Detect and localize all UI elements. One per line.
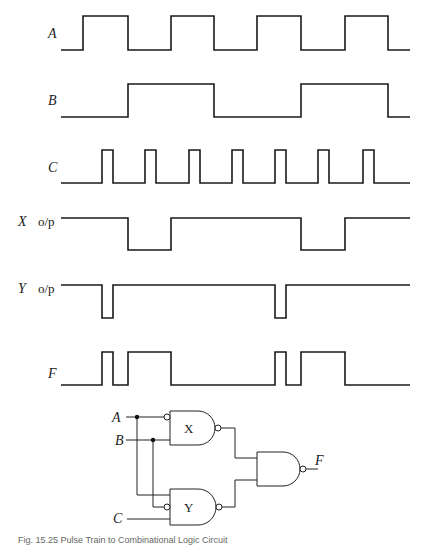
input-label-b: B	[115, 433, 124, 448]
inverter-bubble-a	[164, 414, 170, 420]
wire-x-out	[221, 428, 257, 458]
wire-y-out	[222, 480, 257, 507]
output-bubble-f	[300, 466, 306, 472]
output-bubble-y	[216, 504, 222, 510]
waveform-c	[61, 150, 410, 183]
output-bubble-x	[215, 425, 221, 431]
waveform-f	[61, 352, 410, 385]
junction-b	[151, 438, 155, 442]
input-label-c: C	[113, 511, 123, 526]
output-label-f: F	[314, 453, 324, 468]
timing-diagram: ABCXo/pYo/pF A B C X Y	[0, 0, 427, 545]
waveform-b	[61, 84, 410, 117]
waveform-suffix-x: o/p	[38, 214, 55, 229]
waveform-x	[61, 218, 410, 250]
junction-a	[135, 415, 139, 419]
waveform-labels: ABCXo/pYo/pF	[17, 26, 58, 381]
figure-caption: Fig. 15.25 Pulse Train to Combinational …	[18, 535, 228, 545]
gate-label-y: Y	[184, 500, 194, 515]
waveform-suffix-y: o/p	[38, 281, 55, 296]
waveform-y	[61, 285, 410, 318]
gate-label-x: X	[184, 421, 194, 436]
waveform-label-a: A	[47, 26, 57, 41]
input-label-a: A	[111, 410, 121, 425]
waveform-label-y: Y	[18, 281, 28, 296]
waveform-label-b: B	[48, 93, 57, 108]
waveform-label-c: C	[48, 160, 58, 175]
waveform-a	[61, 16, 410, 50]
inverter-bubble-b	[164, 504, 170, 510]
logic-circuit: A B C X Y F	[111, 410, 324, 526]
nand-gate-f	[257, 452, 300, 486]
waveform-label-f: F	[47, 366, 57, 381]
waveform-group	[61, 16, 410, 385]
waveform-label-x: X	[17, 214, 27, 229]
